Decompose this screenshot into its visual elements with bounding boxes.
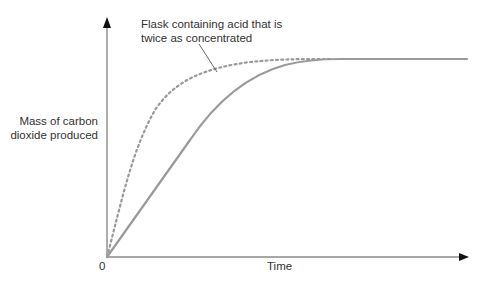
origin-label: 0 [99, 259, 105, 273]
x-axis-arrowhead-icon [459, 253, 469, 261]
y-axis-label-line-1: Mass of carbon [10, 114, 98, 128]
annotation-line-1: Flask containing acid that is [141, 17, 282, 31]
annotation-leader-line [199, 44, 217, 72]
y-axis-arrowhead-icon [103, 17, 111, 28]
y-axis-label: Mass of carbon dioxide produced [10, 114, 98, 142]
annotation-line-2: twice as concentrated [141, 31, 282, 45]
y-axis-label-line-2: dioxide produced [10, 128, 98, 142]
x-axis-label: Time [267, 259, 292, 273]
series-annotation: Flask containing acid that is twice as c… [141, 17, 282, 45]
series-solid-curve [107, 59, 467, 257]
series-dotted-curve [107, 59, 330, 257]
